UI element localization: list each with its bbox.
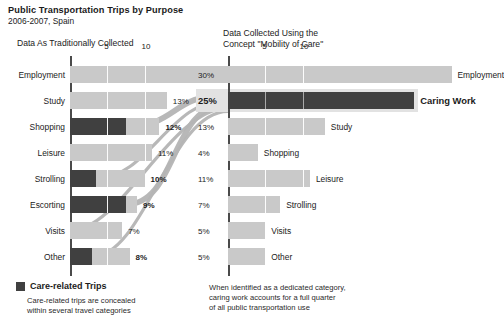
value-label-left-study: 13% [173, 97, 189, 106]
gridline [107, 196, 108, 213]
bar-right-caring-work[interactable] [228, 92, 414, 109]
bar-left-other[interactable] [70, 248, 130, 265]
value-label-right-visits: 5% [198, 227, 210, 236]
right-axis-tick-5: 5 [262, 42, 266, 51]
row-label-right-employment: Employment [458, 70, 504, 80]
bar-left-leisure[interactable] [70, 144, 152, 161]
row-label-left-escorting: Escorting [30, 200, 65, 210]
bar-right-shopping[interactable] [228, 144, 258, 161]
value-label-right-shopping: 4% [198, 149, 210, 158]
row-label-left-visits: Visits [45, 226, 65, 236]
left-axis-line [70, 56, 72, 276]
value-label-right-strolling: 7% [198, 201, 210, 210]
row-label-right-strolling: Strolling [286, 200, 316, 210]
gridline [303, 118, 304, 135]
value-label-right-other: 5% [198, 253, 210, 262]
gridline [107, 222, 108, 239]
gridline [303, 92, 304, 109]
row-label-left-employment: Employment [18, 70, 65, 80]
value-label-left-escorting: 9% [143, 201, 155, 210]
gridline [303, 170, 304, 187]
row-label-right-caring-work: Caring Work [420, 95, 476, 106]
gridline [145, 66, 146, 83]
legend-note: Care-related trips are concealedwithin s… [27, 296, 135, 316]
value-label-right-leisure: 11% [198, 175, 213, 184]
legend-label: Care-related Trips [30, 281, 107, 291]
bar-care-segment [70, 170, 96, 187]
right-panel-note: When identified as a dedicated category,… [209, 283, 346, 313]
gridline [145, 92, 146, 109]
bar-left-shopping[interactable] [70, 118, 159, 135]
row-label-right-leisure: Leisure [316, 174, 343, 184]
row-label-left-shopping: Shopping [30, 122, 65, 132]
bar-care-segment [70, 118, 126, 135]
left-panel-heading: Data As Traditionally Collected [17, 38, 134, 49]
chart-mobility-of-care: 51030%Employment25%Caring Work13%Study4%… [196, 52, 384, 277]
value-label-left-visits: 7% [128, 227, 140, 236]
row-label-left-strolling: Strolling [35, 174, 65, 184]
gridline [107, 66, 108, 83]
bar-right-study[interactable] [228, 118, 325, 135]
gridline [265, 118, 266, 135]
legend: Care-related Trips [16, 281, 107, 291]
bar-care-segment [70, 196, 126, 213]
left-axis-tick-10: 10 [142, 42, 151, 51]
bar-right-other[interactable] [228, 248, 265, 265]
row-label-right-other: Other [271, 252, 292, 262]
value-label-right-employment: 30% [198, 71, 214, 80]
bar-care-segment [70, 248, 92, 265]
page-subtitle: 2006-2007, Spain [8, 16, 74, 26]
gridline [107, 144, 108, 161]
bar-left-visits[interactable] [70, 222, 122, 239]
row-label-left-study: Study [44, 96, 65, 106]
legend-swatch-icon [16, 282, 25, 291]
gridline [107, 118, 108, 135]
gridline [107, 248, 108, 265]
value-label-left-shopping: 12% [165, 123, 181, 132]
gridline [107, 92, 108, 109]
row-label-right-study: Study [331, 122, 352, 132]
value-label-right-study: 13% [198, 123, 214, 132]
gridline [145, 118, 146, 135]
bar-right-strolling[interactable] [228, 196, 280, 213]
right-axis-tick-10: 10 [300, 42, 309, 51]
gridline [265, 170, 266, 187]
chart-traditional: 510Employment30%Study13%Shopping12%Leisu… [0, 52, 190, 277]
value-label-left-leisure: 11% [158, 149, 173, 158]
row-label-left-other: Other [44, 252, 65, 262]
value-label-right-caring-work: 25% [198, 95, 217, 106]
value-label-left-strolling: 10% [151, 175, 167, 184]
page-title: Public Transportation Trips by Purpose [8, 5, 183, 15]
gridline [265, 66, 266, 83]
gridline [145, 144, 146, 161]
bar-left-study[interactable] [70, 92, 167, 109]
gridline [265, 196, 266, 213]
bar-right-visits[interactable] [228, 222, 265, 239]
left-axis-tick-5: 5 [104, 42, 108, 51]
bar-right-leisure[interactable] [228, 170, 310, 187]
row-label-right-shopping: Shopping [264, 148, 299, 158]
row-label-right-visits: Visits [271, 226, 291, 236]
gridline [107, 170, 108, 187]
bar-left-escorting[interactable] [70, 196, 137, 213]
gridline [265, 92, 266, 109]
value-label-left-other: 8% [136, 253, 148, 262]
bar-right-employment[interactable] [228, 66, 452, 83]
gridline [303, 66, 304, 83]
row-label-left-leisure: Leisure [38, 148, 65, 158]
